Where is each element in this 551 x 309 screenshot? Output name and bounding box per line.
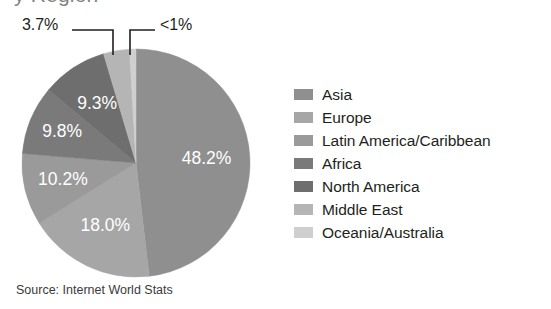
chart-title-remnant: y Region [14,0,98,7]
legend-swatch-icon [294,112,313,123]
legend-item: Latin America/Caribbean [294,129,491,152]
legend-item: Africa [294,152,491,175]
legend-item-label: Asia [322,87,352,103]
legend-swatch-icon [294,89,313,100]
callout-label-middle-east: 3.7% [22,16,58,34]
pie-chart-figure: y Region 48.2%18.0%10.2%9.8%9.3% 3.7% <1… [0,0,551,309]
legend-item: Oceania/Australia [294,221,491,244]
legend-item-label: North America [322,179,420,195]
legend-item-label: Middle East [322,202,402,218]
pie-slice-label: 48.2% [182,148,232,168]
legend-item: Asia [294,83,491,106]
legend-item-label: Oceania/Australia [322,225,444,241]
callout-label-oceania-australia: <1% [160,16,192,34]
pie-svg: 48.2%18.0%10.2%9.8%9.3% [14,38,264,290]
legend-item: Middle East [294,198,491,221]
legend-swatch-icon [294,158,313,169]
legend-item: North America [294,175,491,198]
pie-slice-label: 10.2% [38,169,88,189]
chart-legend: AsiaEuropeLatin America/CaribbeanAfricaN… [294,83,491,244]
legend-swatch-icon [294,204,313,215]
pie-chart-plot-area: 48.2%18.0%10.2%9.8%9.3% [14,38,264,290]
source-note: Source: Internet World Stats [16,283,173,297]
legend-item: Europe [294,106,491,129]
legend-item-label: Africa [322,156,361,172]
pie-slice-label: 9.8% [42,121,82,141]
legend-item-label: Latin America/Caribbean [322,133,491,149]
legend-swatch-icon [294,181,313,192]
legend-swatch-icon [294,135,313,146]
pie-slice-label: 9.3% [77,93,117,113]
legend-swatch-icon [294,227,313,238]
legend-item-label: Europe [322,110,372,126]
pie-slice-label: 18.0% [80,215,130,235]
